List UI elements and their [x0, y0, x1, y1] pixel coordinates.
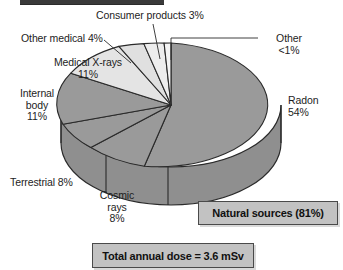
label-other-medical: Other medical 4% — [21, 33, 103, 45]
label-terrestrial: Terrestrial 8% — [10, 177, 73, 189]
label-internal-body: Internal body 11% — [6, 88, 68, 123]
label-other: Other <1% — [261, 33, 317, 56]
chart-canvas: Consumer products 3% Other medical 4% Me… — [0, 0, 343, 270]
callout-natural-sources: Natural sources (81%) — [198, 201, 338, 225]
label-radon: Radon 54% — [288, 95, 318, 118]
label-medical-xrays: Medical X-rays 11% — [45, 57, 131, 80]
callout-total-annual-dose: Total annual dose = 3.6 mSv — [92, 243, 254, 268]
label-cosmic-rays: Cosmic rays 8% — [88, 190, 146, 225]
label-consumer-products: Consumer products 3% — [96, 10, 204, 22]
